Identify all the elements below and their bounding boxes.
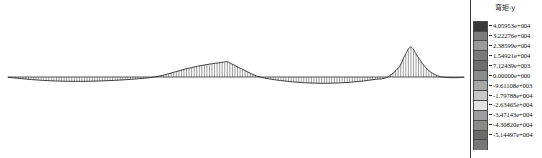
legend-swatch bbox=[474, 131, 487, 141]
tick-dash-icon bbox=[489, 85, 492, 86]
legend-tick: -4.30820e+004 bbox=[489, 120, 542, 130]
legend-title: 弯矩-y bbox=[471, 4, 539, 13]
legend-tick-label: -3.47143e+004 bbox=[493, 111, 533, 118]
moment-hatch-fill bbox=[11, 47, 462, 83]
legend-tick-label: 3.22276e+004 bbox=[493, 32, 530, 39]
color-scale-bar bbox=[473, 21, 488, 150]
legend-tick: -5.14497e+004 bbox=[489, 130, 542, 140]
tick-dash-icon bbox=[489, 65, 492, 66]
legend-tick-label: 7.12439e+003 bbox=[493, 62, 530, 69]
plot-area bbox=[0, 0, 470, 158]
legend-tick: -9.61108e+003 bbox=[489, 80, 542, 90]
legend-swatch bbox=[474, 121, 487, 131]
legend-swatch bbox=[474, 41, 487, 51]
tick-dash-icon bbox=[489, 104, 492, 105]
tick-dash-icon bbox=[489, 25, 492, 26]
legend-tick-label: 1.54921e+004 bbox=[493, 52, 530, 59]
moment-diagram-window: 弯矩-y 4.05953e+0043.22276e+0042.38599e+00… bbox=[0, 0, 542, 158]
tick-dash-icon bbox=[489, 45, 492, 46]
legend-swatch bbox=[474, 91, 487, 101]
legend-swatch bbox=[474, 32, 487, 42]
legend-tick-label: 0.00000e+000 bbox=[493, 72, 530, 79]
legend-swatch bbox=[474, 140, 487, 150]
legend-swatch bbox=[474, 71, 487, 81]
moment-curve bbox=[8, 47, 464, 83]
tick-dash-icon bbox=[489, 124, 492, 125]
tick-dash-icon bbox=[489, 75, 492, 76]
legend-tick: 1.54921e+004 bbox=[489, 50, 542, 60]
legend-tick-label: -1.79788e+004 bbox=[493, 92, 533, 99]
legend-tick-label: -4.30820e+004 bbox=[493, 121, 533, 128]
legend-tick-label: -9.61108e+003 bbox=[493, 82, 532, 89]
legend-tick-label: -2.63465e+004 bbox=[493, 101, 533, 108]
legend-swatch bbox=[474, 22, 487, 32]
legend-tick: -2.63465e+004 bbox=[489, 100, 542, 110]
legend-swatch bbox=[474, 61, 487, 71]
legend-panel: 弯矩-y 4.05953e+0043.22276e+0042.38599e+00… bbox=[470, 0, 542, 158]
legend-tick-label: 4.05953e+004 bbox=[493, 22, 530, 29]
tick-dash-icon bbox=[489, 95, 492, 96]
legend-tick: 7.12439e+003 bbox=[489, 60, 542, 70]
tick-dash-icon bbox=[489, 114, 492, 115]
legend-body: 4.05953e+0043.22276e+0042.38599e+0041.54… bbox=[473, 16, 542, 155]
legend-tick-label: 2.38599e+004 bbox=[493, 42, 530, 49]
legend-tick: 2.38599e+004 bbox=[489, 40, 542, 50]
legend-tick: -1.79788e+004 bbox=[489, 90, 542, 100]
tick-dash-icon bbox=[489, 35, 492, 36]
tick-dash-icon bbox=[489, 55, 492, 56]
legend-tick: 4.05953e+004 bbox=[489, 21, 542, 31]
legend-swatch bbox=[474, 111, 487, 121]
legend-tick-list: 4.05953e+0043.22276e+0042.38599e+0041.54… bbox=[489, 16, 542, 155]
legend-tick-label: -5.14497e+004 bbox=[493, 131, 533, 138]
legend-swatch bbox=[474, 81, 487, 91]
legend-tick: -3.47143e+004 bbox=[489, 110, 542, 120]
legend-tick: 3.22276e+004 bbox=[489, 30, 542, 40]
tick-dash-icon bbox=[489, 134, 492, 135]
legend-swatch bbox=[474, 51, 487, 61]
legend-swatch bbox=[474, 101, 487, 111]
bending-moment-chart bbox=[0, 0, 470, 158]
legend-tick: 0.00000e+000 bbox=[489, 70, 542, 80]
